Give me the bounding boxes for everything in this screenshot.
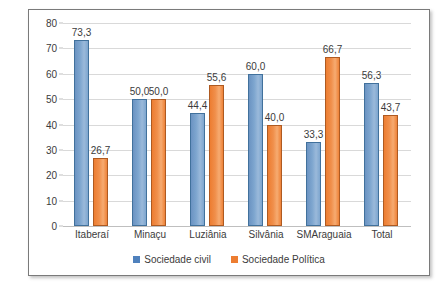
legend-swatch-icon: [231, 256, 238, 263]
gridline-0: [63, 226, 411, 227]
bar-sociedade-politica[interactable]: [325, 57, 340, 226]
bar-data-label: 50,0: [149, 86, 168, 97]
y-axis-tick-label: 50: [46, 94, 57, 105]
bar-sociedade-civil[interactable]: [364, 83, 379, 226]
bar-group: 60,040,0: [237, 23, 295, 226]
x-axis-label: Itaberaí: [75, 229, 109, 240]
bar-data-label: 40,0: [265, 112, 284, 123]
bar-sociedade-politica[interactable]: [209, 85, 224, 226]
legend-label: Sociedade Política: [242, 254, 325, 265]
legend-label: Sociedade civil: [144, 254, 211, 265]
bar-sociedade-civil[interactable]: [74, 40, 89, 226]
bar-data-label: 43,7: [381, 102, 400, 113]
bar-data-label: 73,3: [72, 27, 91, 38]
y-axis-tick-label: 20: [46, 170, 57, 181]
plot-area: 01020304050607080 73,326,750,050,044,455…: [63, 23, 411, 226]
bar-data-label: 44,4: [188, 100, 207, 111]
y-axis-tick-label: 80: [46, 18, 57, 29]
y-axis-tick-label: 0: [51, 221, 57, 232]
bar-sociedade-civil[interactable]: [132, 99, 147, 226]
bar-group: 73,326,7: [63, 23, 121, 226]
chart-legend: Sociedade civilSociedade Política: [29, 254, 429, 265]
bar-sociedade-civil[interactable]: [248, 74, 263, 226]
bar-sociedade-politica[interactable]: [383, 115, 398, 226]
bar-group: 33,366,7: [295, 23, 353, 226]
bar-data-label: 50,0: [130, 86, 149, 97]
y-axis-tick-label: 40: [46, 119, 57, 130]
bar-sociedade-civil[interactable]: [306, 142, 321, 226]
bar-data-label: 60,0: [246, 61, 265, 72]
x-axis-labels: ItaberaíMinaçuLuziâniaSilvâniaSMAraguaia…: [63, 229, 411, 247]
legend-swatch-icon: [133, 256, 140, 263]
x-axis-label: Silvânia: [248, 229, 283, 240]
bar-data-label: 33,3: [304, 129, 323, 140]
chart-container: 01020304050607080 73,326,750,050,044,455…: [28, 9, 430, 276]
bar-data-label: 66,7: [323, 44, 342, 55]
bar-group: 56,343,7: [353, 23, 411, 226]
bar-sociedade-politica[interactable]: [93, 158, 108, 226]
bar-sociedade-civil[interactable]: [190, 113, 205, 226]
x-axis-label: Total: [371, 229, 392, 240]
bar-sociedade-politica[interactable]: [151, 99, 166, 226]
bar-series-group: 73,326,750,050,044,455,660,040,033,366,7…: [63, 23, 411, 226]
bar-sociedade-politica[interactable]: [267, 125, 282, 227]
y-axis-tick-label: 70: [46, 43, 57, 54]
bar-data-label: 55,6: [207, 72, 226, 83]
bar-group: 44,455,6: [179, 23, 237, 226]
y-axis-tick-label: 30: [46, 144, 57, 155]
bar-group: 50,050,0: [121, 23, 179, 226]
y-axis-tick-label: 60: [46, 68, 57, 79]
legend-item[interactable]: Sociedade civil: [133, 254, 211, 265]
legend-item[interactable]: Sociedade Política: [231, 254, 325, 265]
x-axis-label: Minaçu: [134, 229, 166, 240]
bar-data-label: 56,3: [362, 70, 381, 81]
y-axis-tick-label: 10: [46, 195, 57, 206]
x-axis-label: Luziânia: [189, 229, 226, 240]
bar-data-label: 26,7: [91, 145, 110, 156]
x-axis-label: SMAraguaia: [296, 229, 351, 240]
